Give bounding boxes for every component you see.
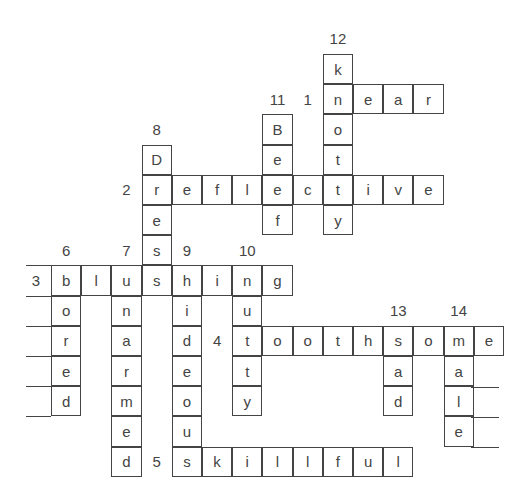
grid-cell[interactable]: m xyxy=(111,386,141,416)
grid-cell[interactable]: B xyxy=(262,114,292,144)
grid-cell[interactable]: g xyxy=(262,265,292,295)
clue-number: 1 xyxy=(293,84,323,114)
grid-cell[interactable]: u xyxy=(111,265,141,295)
grid-cell[interactable]: o xyxy=(51,296,81,326)
clue-number: 5 xyxy=(142,447,172,477)
grid-cell[interactable]: r xyxy=(413,84,443,114)
clue-number: 6 xyxy=(51,235,81,265)
clue-number: 12 xyxy=(323,24,353,54)
grid-line xyxy=(26,416,51,417)
grid-cell[interactable]: i xyxy=(202,265,232,295)
grid-cell[interactable]: l xyxy=(232,175,262,205)
grid-cell[interactable]: o xyxy=(172,386,202,416)
grid-cell[interactable]: e xyxy=(172,356,202,386)
grid-cell[interactable]: l xyxy=(262,447,292,477)
grid-cell[interactable]: t xyxy=(232,326,262,356)
grid-cell[interactable]: d xyxy=(111,447,141,477)
grid-cell[interactable]: k xyxy=(323,54,353,84)
grid-cell[interactable]: l xyxy=(81,265,111,295)
grid-cell[interactable]: f xyxy=(262,205,292,235)
grid-cell[interactable]: d xyxy=(383,386,413,416)
grid-cell[interactable]: c xyxy=(293,175,323,205)
grid-cell[interactable]: l xyxy=(293,447,323,477)
grid-cell[interactable]: a xyxy=(383,356,413,386)
clue-number: 8 xyxy=(142,114,172,144)
grid-cell[interactable]: a xyxy=(111,326,141,356)
grid-cell[interactable]: e xyxy=(111,416,141,446)
grid-cell[interactable]: m xyxy=(444,326,474,356)
grid-cell[interactable]: t xyxy=(323,326,353,356)
grid-cell[interactable]: h xyxy=(353,326,383,356)
grid-cell[interactable]: o xyxy=(323,114,353,144)
grid-cell[interactable]: n xyxy=(323,84,353,114)
grid-cell[interactable]: v xyxy=(383,175,413,205)
grid-cell[interactable]: l xyxy=(444,386,474,416)
grid-cell[interactable]: e xyxy=(474,326,504,356)
grid-line xyxy=(26,265,51,266)
grid-cell[interactable]: y xyxy=(232,386,262,416)
grid-cell[interactable]: s xyxy=(142,235,172,265)
grid-cell[interactable]: s xyxy=(383,326,413,356)
grid-cell[interactable]: e xyxy=(444,416,474,446)
grid-cell[interactable]: D xyxy=(142,145,172,175)
clue-number: 14 xyxy=(444,296,474,326)
grid-cell[interactable]: d xyxy=(51,386,81,416)
grid-line xyxy=(26,356,51,357)
clue-number: 7 xyxy=(111,235,141,265)
grid-cell[interactable]: r xyxy=(111,356,141,386)
grid-cell[interactable]: t xyxy=(323,145,353,175)
grid-cell[interactable]: s xyxy=(142,265,172,295)
clue-number: 4 xyxy=(202,326,232,356)
grid-cell[interactable]: d xyxy=(172,326,202,356)
clue-number: 13 xyxy=(383,296,413,326)
grid-cell[interactable]: i xyxy=(232,447,262,477)
grid-line xyxy=(26,296,51,297)
grid-cell[interactable]: o xyxy=(293,326,323,356)
grid-cell[interactable]: n xyxy=(111,296,141,326)
clue-number: 3 xyxy=(21,265,51,295)
grid-cell[interactable]: r xyxy=(51,326,81,356)
grid-line xyxy=(26,386,51,387)
clue-number: 2 xyxy=(111,175,141,205)
grid-cell[interactable]: a xyxy=(383,84,413,114)
grid-cell[interactable]: u xyxy=(172,416,202,446)
grid-cell[interactable]: h xyxy=(172,265,202,295)
grid-cell[interactable]: o xyxy=(262,326,292,356)
grid-cell[interactable]: u xyxy=(232,296,262,326)
grid-cell[interactable]: f xyxy=(323,447,353,477)
grid-cell[interactable]: y xyxy=(323,205,353,235)
clue-number: 10 xyxy=(232,235,262,265)
grid-cell[interactable]: b xyxy=(51,265,81,295)
grid-cell[interactable]: e xyxy=(51,356,81,386)
grid-cell[interactable]: k xyxy=(202,447,232,477)
clue-number: 11 xyxy=(262,84,292,114)
grid-cell[interactable]: t xyxy=(232,356,262,386)
grid-cell[interactable]: a xyxy=(444,356,474,386)
grid-cell[interactable]: l xyxy=(383,447,413,477)
clue-number: 9 xyxy=(172,235,202,265)
grid-cell[interactable]: i xyxy=(353,175,383,205)
grid-cell[interactable]: s xyxy=(172,447,202,477)
grid-cell[interactable]: i xyxy=(172,296,202,326)
crossword-grid: nearreflectiveblushingtoothsomeskillfulo… xyxy=(0,0,526,501)
grid-cell[interactable]: e xyxy=(262,145,292,175)
grid-cell[interactable]: e xyxy=(142,205,172,235)
grid-cell[interactable]: n xyxy=(232,265,262,295)
grid-cell[interactable]: f xyxy=(202,175,232,205)
grid-cell[interactable]: e xyxy=(172,175,202,205)
grid-cell[interactable]: t xyxy=(323,175,353,205)
grid-cell[interactable]: e xyxy=(413,175,443,205)
grid-line xyxy=(471,417,499,418)
grid-line xyxy=(471,387,499,388)
grid-cell[interactable]: u xyxy=(353,447,383,477)
grid-cell[interactable]: r xyxy=(142,175,172,205)
grid-cell[interactable]: e xyxy=(262,175,292,205)
grid-cell[interactable]: o xyxy=(413,326,443,356)
grid-line xyxy=(471,447,499,448)
grid-cell[interactable]: e xyxy=(353,84,383,114)
grid-line xyxy=(26,326,51,327)
